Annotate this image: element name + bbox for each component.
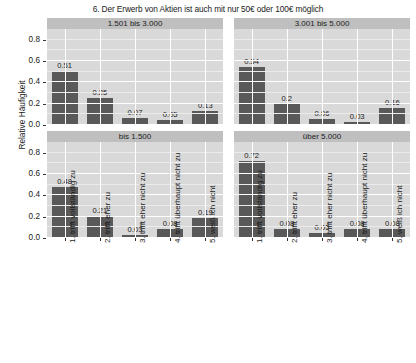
y-tick-mark	[43, 174, 46, 175]
y-tick-mark	[43, 217, 46, 218]
y-tick-mark	[43, 153, 46, 154]
y-tick-label: 0.6	[14, 169, 40, 178]
gridline-vertical	[252, 142, 253, 238]
x-tick-mark	[357, 238, 358, 241]
panel-strip-label: 3.001 bis 5.000	[234, 18, 410, 29]
y-axis-title: Relative Häufigkeit	[17, 50, 27, 180]
x-tick-mark	[392, 238, 393, 241]
panel-grid: 1.501 bis 3.000 0.510.250.070.050.13 3.0…	[47, 18, 410, 238]
plot-area: 0.540.20.060.030.16	[234, 29, 410, 125]
gridline-vertical	[170, 29, 171, 125]
gridline-vertical	[357, 29, 358, 125]
x-tick-label: 2. trifft eher zu	[290, 192, 299, 243]
x-tick-label: 1. trifft vollständig zu	[255, 170, 264, 243]
gridline-vertical	[65, 142, 66, 238]
y-tick-label: 0.4	[14, 190, 40, 199]
panel-strip-label: über 5.000	[234, 131, 410, 142]
gridline-vertical	[392, 29, 393, 125]
facet-bar-chart: 6. Der Erwerb von Aktien ist auch mit nu…	[0, 0, 416, 363]
x-tick-mark	[135, 238, 136, 241]
y-tick-mark	[43, 125, 46, 126]
y-tick-mark	[43, 40, 46, 41]
panel-top-left: 1.501 bis 3.000 0.510.250.070.050.13	[47, 18, 223, 125]
gridline-vertical	[392, 142, 393, 238]
y-tick-label: 0.0	[14, 120, 40, 129]
gridline-vertical	[357, 142, 358, 238]
y-tick-label: 0.0	[14, 233, 40, 242]
x-tick-mark	[205, 238, 206, 241]
panel-top-right: 3.001 bis 5.000 0.540.20.060.030.16	[234, 18, 410, 125]
x-tick-label: 3. trifft eher nicht zu	[138, 173, 147, 243]
x-tick-label: 3. trifft eher nicht zu	[325, 173, 334, 243]
gridline-vertical	[205, 29, 206, 125]
x-tick-mark	[100, 238, 101, 241]
y-tick-label: 0.8	[14, 148, 40, 157]
gridline-vertical	[322, 142, 323, 238]
x-tick-label: 5. weiß ich nicht	[395, 186, 404, 243]
x-tick-mark	[287, 238, 288, 241]
plot-area: 0.510.250.070.050.13	[47, 29, 223, 125]
panel-strip-label: bis 1.500	[47, 131, 223, 142]
y-tick-label: 0.8	[14, 35, 40, 44]
gridline-vertical	[135, 142, 136, 238]
x-tick-label: 4. trifft überhaupt nicht zu	[173, 153, 182, 243]
gridline-vertical	[65, 29, 66, 125]
panel-strip-label: 1.501 bis 3.000	[47, 18, 223, 29]
gridline-vertical	[100, 29, 101, 125]
chart-title: 6. Der Erwerb von Aktien ist auch mit nu…	[0, 4, 416, 14]
gridline-vertical	[170, 142, 171, 238]
x-tick-mark	[252, 238, 253, 241]
x-tick-label: 5. weiß ich nicht	[208, 186, 217, 243]
gridline-vertical	[322, 29, 323, 125]
gridline-vertical	[287, 29, 288, 125]
gridline-vertical	[135, 29, 136, 125]
y-tick-mark	[43, 104, 46, 105]
y-tick-label: 0.2	[14, 212, 40, 221]
y-tick-mark	[43, 82, 46, 83]
y-tick-label: 0.2	[14, 99, 40, 108]
gridline-vertical	[287, 142, 288, 238]
x-tick-mark	[65, 238, 66, 241]
y-tick-label: 0.6	[14, 56, 40, 65]
y-tick-mark	[43, 195, 46, 196]
x-tick-mark	[322, 238, 323, 241]
x-tick-label: 4. trifft überhaupt nicht zu	[360, 153, 369, 243]
y-tick-mark	[43, 61, 46, 62]
x-tick-label: 1. trifft vollständig zu	[68, 170, 77, 243]
x-tick-mark	[170, 238, 171, 241]
gridline-vertical	[252, 29, 253, 125]
x-tick-label: 2. trifft eher zu	[103, 192, 112, 243]
y-tick-mark	[43, 238, 46, 239]
gridline-vertical	[100, 142, 101, 238]
gridline-vertical	[205, 142, 206, 238]
y-tick-label: 0.4	[14, 77, 40, 86]
